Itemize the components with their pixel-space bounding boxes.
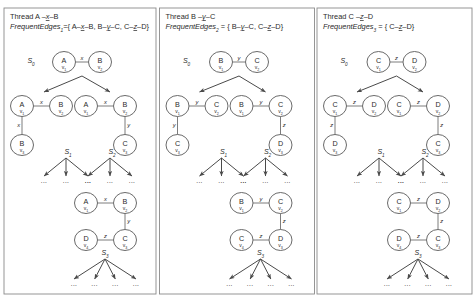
ellipsis-leaf: ...	[91, 280, 98, 287]
ellipsis-leaf: ...	[63, 177, 70, 184]
diagram-svg: Thread A –x–BFrequentEdges1={ A–x–B, B–y…	[0, 0, 476, 302]
graph-node: Bv1	[166, 96, 189, 117]
edge-label: z	[282, 122, 286, 128]
thread-panel: Thread C –z–DFrequentEdges3 = { C–z–D}S0…	[317, 8, 472, 294]
graph-node: Bv3	[11, 135, 34, 156]
edge-label: z	[416, 99, 420, 105]
graph-node: Dv2	[427, 96, 450, 117]
graph-node: Bv2	[89, 52, 112, 73]
ellipsis-leaf: ...	[262, 177, 269, 184]
graph-node: Bv1	[230, 96, 253, 117]
figure-canvas: Thread A –x–BFrequentEdges1={ A–x–B, B–y…	[0, 0, 476, 302]
graph-node: Dv2	[403, 52, 426, 73]
ellipsis-leaf: ...	[247, 280, 254, 287]
thread-panel: Thread B –y–CFrequentEdges2 = { B–y–C, C…	[160, 8, 315, 294]
ellipsis-leaf: ...	[41, 177, 48, 184]
edge-label: z	[259, 233, 263, 239]
graph-node: Cv2	[205, 96, 228, 117]
graph-node: Dv3	[269, 230, 292, 251]
graph-node: Cv2	[269, 193, 292, 214]
ellipsis-leaf: ...	[398, 177, 405, 184]
ellipsis-leaf: ...	[420, 177, 427, 184]
frequent-edges-line: FrequentEdges1={ A–x–B, B–y–C, C–z–D}	[10, 22, 150, 33]
graph-node: Cv1	[367, 52, 390, 73]
graph-node: Cv1	[324, 96, 347, 117]
ellipsis-leaf: ...	[240, 177, 247, 184]
graph-node: Cv2	[246, 52, 269, 73]
ellipsis-leaf: ...	[133, 280, 140, 287]
graph-node: Av1	[53, 52, 76, 73]
edge-label: z	[439, 122, 443, 128]
graph-node: Dv2	[427, 193, 450, 214]
ellipsis-leaf: ...	[218, 177, 225, 184]
thread-title: Thread B –y–C	[166, 12, 216, 21]
graph-node: Av1	[11, 96, 34, 117]
thread-title: Thread A –x–B	[10, 12, 59, 21]
ellipsis-leaf: ...	[354, 177, 361, 184]
ellipsis-leaf: ...	[226, 280, 233, 287]
graph-node: Dv4	[388, 230, 411, 251]
ellipsis-leaf: ...	[107, 177, 114, 184]
graph-node: Cv1	[388, 96, 411, 117]
ellipsis-leaf: ...	[384, 280, 391, 287]
graph-node: Bv2	[114, 96, 137, 117]
edge-label: z	[416, 233, 420, 239]
graph-node: Cv3	[114, 135, 137, 156]
ellipsis-leaf: ...	[112, 280, 119, 287]
graph-node: Cv3	[114, 230, 137, 251]
ellipsis-leaf: ...	[288, 280, 295, 287]
frequent-edges-line: FrequentEdges2 = { B–y–C, C–z–D}	[166, 22, 284, 33]
graph-node: Bv2	[50, 96, 73, 117]
ellipsis-leaf: ...	[129, 177, 136, 184]
graph-node: Dv2	[363, 96, 386, 117]
graph-node: Cv3	[166, 135, 189, 156]
graph-node: Cv2	[269, 96, 292, 117]
graph-node: Cv3	[427, 135, 450, 156]
ellipsis-leaf: ...	[71, 280, 78, 287]
ellipsis-leaf: ...	[404, 280, 411, 287]
thread-panel: Thread A –x–BFrequentEdges1={ A–x–B, B–y…	[4, 8, 156, 294]
edge-label: z	[416, 196, 420, 202]
graph-node: Cv4	[230, 230, 253, 251]
graph-node: Bv1	[210, 52, 233, 73]
graph-node: Bv1	[230, 193, 253, 214]
edge-label: z	[329, 122, 333, 128]
graph-node: Dv3	[269, 135, 292, 156]
edge-label: z	[394, 55, 398, 61]
ellipsis-leaf: ...	[268, 280, 275, 287]
graph-node: Cv1	[388, 193, 411, 214]
ellipsis-leaf: ...	[85, 177, 92, 184]
graph-node: Dv3	[324, 135, 347, 156]
graph-node: Cv3	[427, 230, 450, 251]
ellipsis-leaf: ...	[196, 177, 203, 184]
ellipsis-leaf: ...	[442, 177, 449, 184]
graph-node: Av1	[75, 96, 98, 117]
ellipsis-leaf: ...	[376, 177, 383, 184]
graph-node: Av1	[75, 193, 98, 214]
edge-label: z	[103, 233, 107, 239]
frequent-edges-line: FrequentEdges3 = { C–z–D}	[323, 22, 415, 33]
ellipsis-leaf: ...	[425, 280, 432, 287]
graph-node: Bv2	[114, 193, 137, 214]
edge-label: z	[352, 99, 356, 105]
ellipsis-leaf: ...	[446, 280, 453, 287]
thread-title: Thread C –z–D	[323, 12, 373, 21]
ellipsis-leaf: ...	[284, 177, 291, 184]
graph-node: Dv4	[75, 230, 98, 251]
edge-label: z	[439, 218, 443, 224]
edge-label: z	[282, 218, 286, 224]
